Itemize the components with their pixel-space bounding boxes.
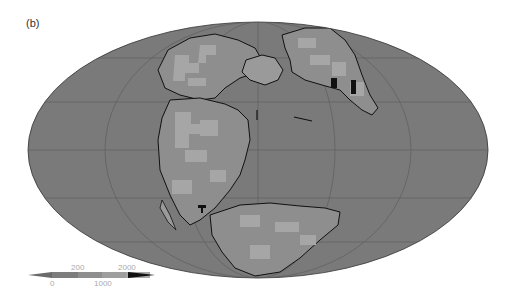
colorbar-label-0: 0 — [50, 279, 54, 288]
colorbar-label-200: 200 — [71, 263, 84, 272]
colorbar-label-2000: 2000 — [118, 263, 136, 272]
elevation-colorbar — [0, 0, 513, 303]
colorbar-label-1000: 1000 — [94, 279, 112, 288]
